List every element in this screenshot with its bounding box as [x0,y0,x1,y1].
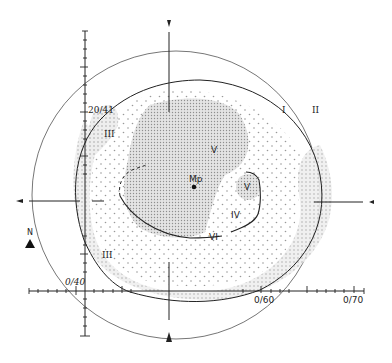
label-x-end-scale: 0/70 [343,296,363,305]
top-arrow-icon [167,20,171,27]
label-north: N [27,229,33,237]
label-isopter-I: I [282,106,286,115]
perimetry-diagram: 20/41 III I II V Mp V IV VI III N 0/40 0… [0,0,392,363]
label-isopter-V-top: V [211,146,217,155]
label-center-mp: Mp [189,175,202,184]
label-isopter-IV: IV [231,211,240,220]
label-isopter-V-right: V [244,183,250,192]
north-triangle-icon [25,239,35,248]
right-arrow-icon [369,200,374,204]
bottom-arrow-icon [166,332,172,342]
label-isopter-II: II [312,106,319,115]
label-x-mid-scale: 0/60 [254,296,274,305]
macula-point [192,185,197,190]
label-isopter-VI: VI [209,233,218,242]
left-arrow-icon [16,199,23,203]
label-isopter-III-top: III [104,130,115,139]
label-isopter-III-bottom: III [102,251,113,260]
label-origin-scale: 0/40 [65,278,85,287]
label-top-left-scale: 20/41 [88,106,114,115]
